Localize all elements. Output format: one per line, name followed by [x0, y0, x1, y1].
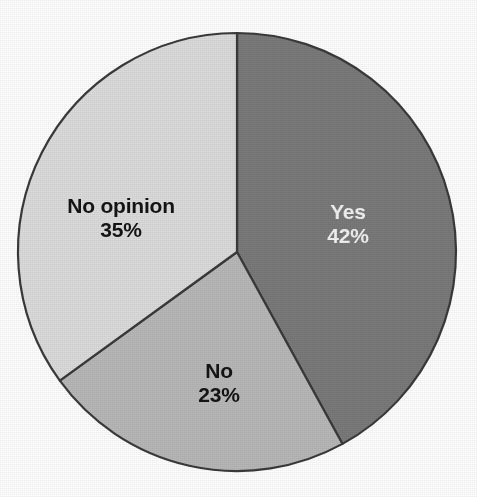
- pie-chart-figure: Yes 42% No 23% No opinion 35%: [0, 0, 477, 497]
- pie-slice-value-no: 23%: [198, 383, 240, 406]
- pie-slice-label-yes: Yes: [330, 200, 366, 223]
- pie-slice-label-no-opinion: No opinion: [67, 194, 175, 217]
- pie-chart-canvas: Yes 42% No 23% No opinion 35%: [0, 0, 477, 497]
- pie-slice-value-no-opinion: 35%: [100, 218, 142, 241]
- pie-slice-label-no: No: [205, 359, 233, 382]
- pie-slice-value-yes: 42%: [327, 224, 369, 247]
